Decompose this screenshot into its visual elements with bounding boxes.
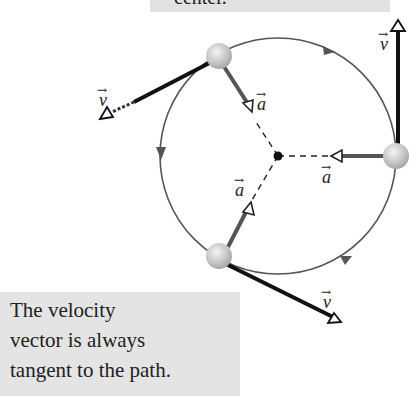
ball-top [206,43,232,69]
center-point [274,152,283,161]
svg-text:→: → [234,173,244,187]
label-v-top: v → [378,27,388,54]
arrowhead-icon [391,20,405,31]
velocity-vector-top [100,58,219,119]
ball-bottom [206,243,232,269]
acceleration-vector-top [223,65,253,112]
label-a-bottom: a → [234,173,244,200]
label-v-bottom: v → [321,285,331,312]
path-arrow-icon-top [323,46,335,55]
arrowhead-icon [243,202,254,215]
arrowhead-icon [243,100,253,112]
circular-motion-diagram: v → v → v → a → a → a → [0,0,419,398]
velocity-vector-right [391,20,405,145]
svg-text:→: → [378,27,388,41]
path-arrow-icon-left [156,147,166,160]
ball-right [383,143,409,169]
svg-text:→: → [321,160,331,174]
dashed-radii [252,119,380,200]
label-a-top: a → [256,87,266,114]
svg-text:→: → [256,87,266,101]
path-arrow-icon-bottom [340,256,352,265]
label-a-right: a → [321,160,331,187]
arrowhead-icon [331,150,342,162]
acceleration-vector-bottom [228,202,254,247]
svg-text:→: → [97,83,107,97]
svg-text:→: → [321,285,331,299]
acceleration-vector-right [331,150,385,162]
label-v-left: v → [97,83,107,110]
